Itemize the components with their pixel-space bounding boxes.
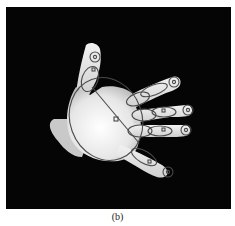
thumb: [76, 43, 101, 97]
figure-image: [6, 7, 231, 209]
figure-caption: (b): [0, 211, 235, 223]
hand-model-illustration: [6, 7, 231, 209]
